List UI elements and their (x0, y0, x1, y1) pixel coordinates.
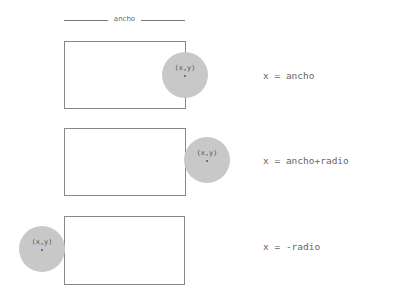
width-ruler: ancho (64, 20, 185, 21)
circle-case-1: (x,y) (162, 52, 208, 98)
center-point (206, 160, 208, 162)
center-point (184, 75, 186, 77)
center-point (41, 249, 43, 251)
circle-label: (x,y) (19, 238, 65, 246)
equation-case-2: x = ancho+radio (263, 155, 349, 166)
rectangle-case-3 (64, 216, 185, 285)
circle-case-3: (x,y) (19, 226, 65, 272)
circle-label: (x,y) (162, 64, 208, 72)
rectangle-case-2 (64, 128, 186, 196)
ruler-label: ancho (64, 15, 185, 23)
circle-label: (x,y) (184, 149, 230, 157)
equation-case-1: x = ancho (263, 70, 314, 81)
equation-case-3: x = -radio (263, 241, 320, 252)
circle-case-2: (x,y) (184, 137, 230, 183)
